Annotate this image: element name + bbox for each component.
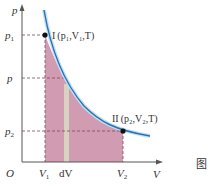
state-point-1 [42,32,47,37]
state-label-2: II(p₂,V₂,T) [112,113,158,125]
figure-caption: 图 [196,158,207,170]
x-axis-arrow-icon [156,160,163,165]
x-axis-label: V [153,168,161,180]
y-axis-arrow-icon [20,4,25,11]
x-tick-dv: dV [59,167,73,179]
state-point-2 [120,128,125,133]
state-label-1: I(p₁,V₁,T) [52,30,94,42]
y-tick-p2: p2 [4,125,15,139]
pv-diagram: p V O p1 p p2 V1 dV V2 I(p₁,V₁,T) II(p₂,… [0,0,211,186]
y-tick-p1: p1 [4,29,15,43]
dv-strip [64,84,69,162]
y-tick-p: p [6,72,13,84]
x-tick-v1: V1 [39,167,50,181]
origin-label: O [6,167,14,179]
y-axis-label: p [11,4,18,16]
x-tick-v2: V2 [117,167,128,181]
